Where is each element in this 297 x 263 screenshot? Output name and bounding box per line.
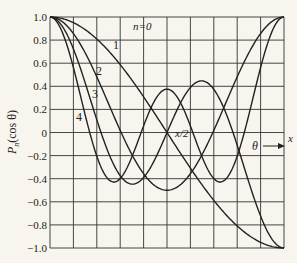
- curve-label-2: 2: [96, 64, 102, 78]
- y-tick-label: −0.2: [27, 150, 47, 162]
- arrow-right-icon: [263, 143, 285, 149]
- y-tick-label: 0.8: [33, 34, 47, 46]
- y-tick-label: −1.0: [27, 242, 47, 254]
- y-tick-label: 0: [42, 127, 48, 139]
- y-tick-label: 1.0: [33, 11, 47, 23]
- y-tick-label: 0.2: [33, 103, 47, 115]
- curve-label-4: 4: [76, 110, 82, 124]
- y-tick-labels: 1.00.80.60.40.20−0.2−0.4−0.6−0.8−1.0: [27, 11, 47, 254]
- y-tick-label: −0.4: [27, 173, 47, 185]
- legendre-chart: 1.00.80.60.40.20−0.2−0.4−0.6−0.8−1.0 1 2…: [0, 0, 297, 263]
- x-axis-end-label: x: [287, 132, 293, 144]
- y-axis-label: Pn(cos θ): [5, 110, 21, 155]
- mid-label: x/2: [174, 127, 189, 139]
- n-zero-label: n=0: [133, 20, 152, 32]
- y-tick-label: −0.8: [27, 219, 47, 231]
- y-tick-label: −0.6: [27, 196, 47, 208]
- theta-label: θ: [252, 139, 258, 153]
- curve-label-1: 1: [113, 38, 119, 52]
- svg-text:Pn(cos θ): Pn(cos θ): [5, 110, 21, 155]
- y-tick-label: 0.6: [33, 57, 47, 69]
- y-tick-label: 0.4: [33, 80, 47, 92]
- curve-label-3: 3: [92, 87, 98, 101]
